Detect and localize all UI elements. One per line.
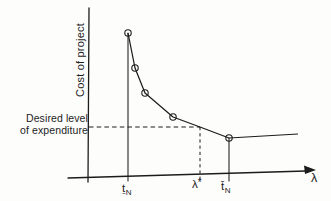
desired-expenditure-label: Desired level of expenditure — [6, 113, 88, 136]
t-underbar-subscript: N — [126, 188, 132, 197]
figure-canvas: Cost of project Desired level of expendi… — [0, 0, 331, 201]
y-axis-line — [88, 8, 89, 182]
x-tick-label-lambda-star: λ* — [192, 177, 202, 190]
cost-curve — [128, 33, 298, 138]
desired-label-line1: Desired level — [6, 113, 88, 125]
x-tick-label-t-underbar-n: ṯN — [122, 182, 131, 197]
desired-label-line2: of expenditure — [6, 125, 88, 137]
t-overbar-symbol: t̄ — [221, 180, 224, 192]
y-axis-label: Cost of project — [74, 8, 86, 112]
t-underbar-symbol: ṯ — [122, 182, 125, 194]
x-axis-line — [68, 171, 306, 178]
plot-svg — [0, 0, 331, 201]
t-overbar-subscript: N — [225, 186, 231, 195]
lambda-star-superscript: * — [198, 177, 202, 188]
x-tick-label-t-overbar-n: t̄N — [221, 180, 230, 195]
x-axis-label: λ — [311, 171, 317, 185]
